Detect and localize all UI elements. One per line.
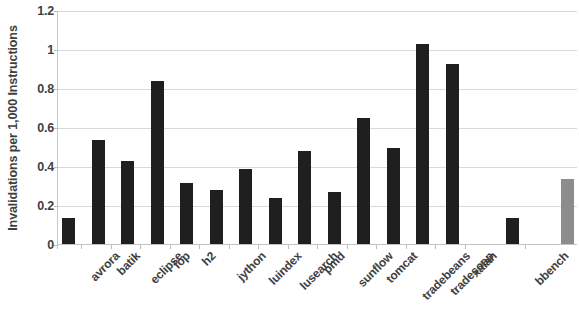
x-axis-category-labels: avrorabatikeclipsefoph2jythonluindexluse… <box>0 249 579 315</box>
bar <box>298 151 311 245</box>
x-axis-label: xalan <box>469 249 500 280</box>
bar <box>239 169 252 245</box>
bar <box>328 192 341 245</box>
bar <box>446 64 459 245</box>
y-axis-tick-label: 0.8 <box>24 82 54 96</box>
bar <box>92 140 105 245</box>
bar <box>210 190 223 245</box>
y-axis-title-text: Invalidations per 1,000 Instructions <box>6 25 20 231</box>
bar <box>151 81 164 245</box>
plot-area <box>57 11 577 245</box>
bar <box>561 179 574 245</box>
y-axis-title: Invalidations per 1,000 Instructions <box>0 0 26 255</box>
x-axis-label: h2 <box>198 249 218 269</box>
y-axis-tick-label: 1.2 <box>24 4 54 18</box>
y-axis-tick-label: 1 <box>24 43 54 57</box>
bar <box>416 44 429 245</box>
y-axis-tick-label: 0.4 <box>24 160 54 174</box>
bar <box>269 198 282 245</box>
bar <box>180 183 193 245</box>
bar <box>357 118 370 245</box>
y-axis-tick-labels: 1.210.80.60.40.20 <box>24 0 54 255</box>
bars-layer <box>58 11 577 245</box>
bar <box>506 218 519 245</box>
bar <box>62 218 75 245</box>
bar <box>387 148 400 246</box>
y-axis-tick-label: 0.6 <box>24 121 54 135</box>
y-axis-tick-label: 0.2 <box>24 199 54 213</box>
x-axis-label: jython <box>234 249 269 284</box>
x-axis-label: bbench <box>533 249 572 288</box>
bar <box>121 161 134 245</box>
bar-chart: Invalidations per 1,000 Instructions 1.2… <box>0 0 579 315</box>
